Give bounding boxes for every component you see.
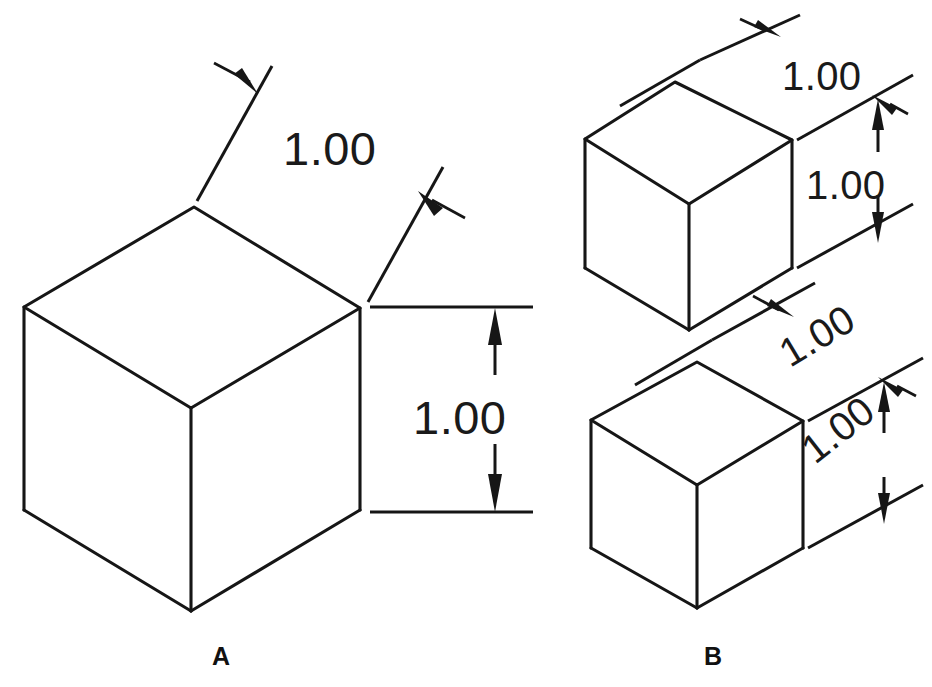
panel-b-label: B [704,642,722,670]
technical-drawing-figure: 1.00 1.00 A [0,0,932,687]
cube-b-upper-height-value: 1.00 [806,163,885,207]
drawing-canvas: 1.00 1.00 A [0,0,932,687]
cube-a-height-value: 1.00 [413,391,506,444]
cube-b-upper-top-value: 1.00 [782,54,861,98]
panel-a-label: A [212,642,230,670]
cube-a-top-value: 1.00 [283,122,376,175]
